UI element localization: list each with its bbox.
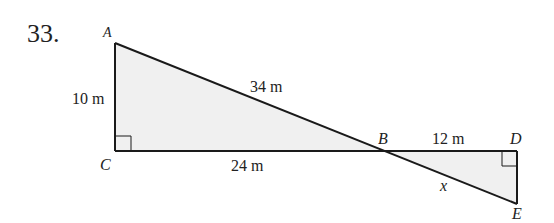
vertex-label-d: D — [509, 130, 522, 147]
vertex-label-c: C — [100, 156, 111, 173]
vertex-label-b: B — [378, 130, 388, 147]
segment-label-bd: 12 m — [432, 130, 465, 147]
segment-label-ac: 10 m — [72, 90, 105, 107]
problem-number: 33. — [27, 19, 60, 48]
vertex-label-e: E — [511, 205, 522, 222]
segment-label-cb: 24 m — [231, 157, 264, 174]
segment-label-be: x — [439, 177, 447, 194]
vertex-label-a: A — [102, 25, 112, 40]
triangle-figure: 33. A B C D E 10 m 34 m 24 m 12 m x — [0, 0, 554, 223]
segment-label-ab: 34 m — [250, 78, 283, 95]
